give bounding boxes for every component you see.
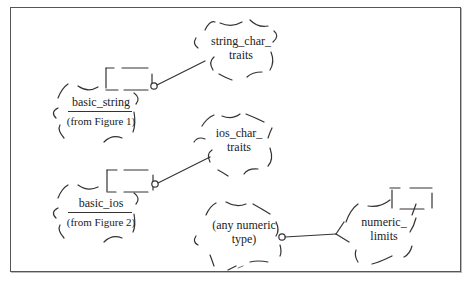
uses-link-numeric — [279, 222, 349, 242]
class-label-ios-char-traits: ios_char_ traits — [210, 126, 268, 154]
class-label-any-numeric-type: (any numeric type) — [208, 218, 280, 246]
cloud-basic-string — [53, 84, 138, 142]
class-name-separator-basic-ios — [68, 212, 132, 213]
class-name-line2: traits — [211, 48, 271, 62]
class-name-line1: numeric_ — [358, 215, 410, 229]
class-name-line2: type) — [208, 232, 280, 246]
class-note-basic-string: (from Figure 1) — [62, 114, 140, 128]
class-name-line1: ios_char_ — [210, 126, 268, 140]
class-label-string-char-traits: string_char_ traits — [211, 34, 271, 62]
class-name-separator-basic-string — [68, 111, 132, 112]
class-name-line1: string_char_ — [211, 34, 271, 48]
class-note-basic-ios: (from Figure 2) — [62, 215, 140, 229]
class-label-basic-ios: basic_ios — [65, 196, 137, 210]
stray-mark — [238, 266, 243, 268]
class-label-basic-string: basic_string — [65, 95, 137, 109]
cloud-basic-ios — [53, 185, 138, 242]
template-box-basic-string — [106, 68, 152, 90]
uses-link-string — [151, 61, 205, 89]
template-box-basic-ios — [107, 170, 153, 192]
template-box-numeric-limits — [390, 188, 432, 209]
class-label-numeric-limits: numeric_ limits — [358, 215, 410, 243]
class-name-line2: traits — [210, 140, 268, 154]
uses-link-ios — [152, 157, 210, 187]
class-name-line1: (any numeric — [208, 218, 280, 232]
class-name-line2: limits — [358, 229, 410, 243]
